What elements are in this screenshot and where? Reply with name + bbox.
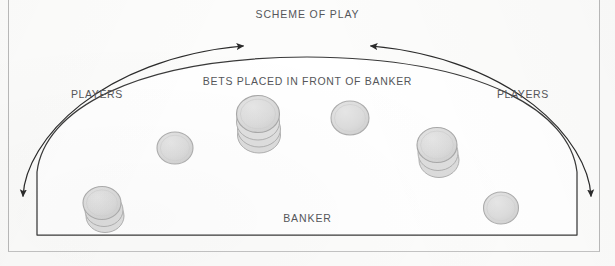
chip-stack-right <box>417 128 459 178</box>
scheme-of-play-drawing <box>0 0 615 266</box>
players-left-label: PLAYERS <box>71 88 123 100</box>
banker-label: BANKER <box>0 212 615 224</box>
players-right-label: PLAYERS <box>497 88 549 100</box>
page-title: SCHEME OF PLAY <box>0 8 615 20</box>
chip-single-left <box>157 132 193 164</box>
bets-placement-note: BETS PLACED IN FRONT OF BANKER <box>0 75 615 87</box>
chip-stack-center-left <box>237 96 281 154</box>
chip-stack-bottom-left <box>83 187 124 233</box>
scheme-of-play-figure: SCHEME OF PLAY BETS PLACED IN FRONT OF B… <box>0 0 615 266</box>
chip-single-center-right <box>331 101 369 135</box>
